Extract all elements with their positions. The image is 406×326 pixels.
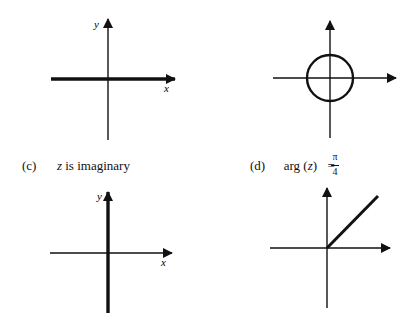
caption-c-label: (c): [22, 158, 36, 173]
caption-c: (c) z is imaginary: [22, 158, 130, 174]
caption-d-arg: arg (: [284, 158, 308, 173]
panel-a: y x: [51, 18, 175, 140]
caption-d-close: ): [313, 158, 317, 173]
caption-c-text: is imaginary: [62, 158, 130, 173]
x-label: x: [163, 82, 169, 94]
panel-d: [270, 188, 390, 308]
y-label: y: [96, 190, 102, 202]
panel-b: [273, 21, 396, 138]
fraction-denominator: 4: [330, 166, 340, 177]
caption-d-label: (d): [250, 158, 265, 173]
arg-ray: [327, 196, 378, 248]
y-label: y: [93, 18, 99, 30]
fraction-numerator: π: [330, 151, 340, 162]
caption-d: (d) arg (z) =: [250, 158, 335, 174]
panel-c: y x: [50, 190, 172, 313]
x-label: x: [160, 256, 166, 268]
